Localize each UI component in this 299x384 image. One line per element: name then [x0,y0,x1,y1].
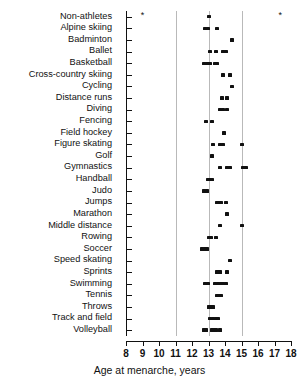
category-label-distance-runs: Distance runs [56,93,112,103]
data-point [225,96,229,99]
data-point [222,131,226,134]
category-tick [126,284,132,285]
category-label-cycling: Cycling [82,81,112,91]
data-point [206,27,210,30]
category-label-jumps: Jumps [85,197,112,207]
data-point [209,236,213,239]
x-tick-label-17: 17 [269,348,280,360]
data-point [244,166,248,169]
category-label-fencing: Fencing [79,116,112,126]
data-point [228,73,232,76]
category-label-handball: Handball [76,174,112,184]
x-tick-15 [242,341,243,346]
menarche-age-dot-chart: Non-athletesAlpine skiingBadmintonBallet… [0,0,299,384]
x-axis [126,341,292,347]
gridline-11 [176,11,177,336]
x-tick-label-9: 9 [140,348,146,360]
data-point [210,178,214,181]
x-tick-label-11: 11 [170,348,181,360]
category-label-gymnastics: Gymnastics [64,162,112,172]
category-axis-spine [126,11,127,336]
category-label-golf: Golf [95,151,112,161]
x-tick-12 [192,341,193,346]
data-point [220,96,224,99]
data-point [205,247,209,250]
category-tick [126,110,132,111]
category-tick [126,237,132,238]
x-tick-16 [258,341,259,346]
data-point [205,189,209,192]
x-axis-title: Age at menarche, years [0,364,299,376]
outlier-asterisk: * [140,13,145,18]
data-point [218,166,222,169]
data-point [230,85,234,88]
category-label-basketball: Basketball [70,58,112,68]
category-label-judo: Judo [92,186,112,196]
category-label-cross-country-skiing: Cross-country skiing [29,70,112,80]
data-point [216,317,220,320]
data-point [218,224,222,227]
x-tick-11 [176,341,177,346]
x-tick-9 [143,341,144,346]
x-tick-17 [275,341,276,346]
x-tick-8 [126,341,127,346]
category-tick [126,28,132,29]
data-point [204,328,208,331]
category-tick [126,63,132,64]
data-point [225,270,229,273]
category-label-soccer: Soccer [83,244,112,254]
data-point [219,294,223,297]
category-label-figure-skating: Figure skating [54,139,112,149]
category-tick [126,330,132,331]
x-tick-label-13: 13 [203,348,214,360]
category-label-ballet: Ballet [89,46,112,56]
category-label-alpine-skiing: Alpine skiing [60,23,112,33]
data-point [207,15,211,18]
x-tick-label-16: 16 [252,348,263,360]
x-tick-label-8: 8 [123,348,129,360]
x-tick-label-10: 10 [153,348,164,360]
outlier-asterisk: * [278,13,283,18]
data-point [210,120,214,123]
data-point [240,224,244,227]
category-tick [126,52,132,53]
category-tick [126,214,132,215]
x-tick-10 [159,341,160,346]
category-tick [126,226,132,227]
category-tick [126,133,132,134]
data-point [208,50,212,53]
category-tick [126,17,132,18]
category-tick [126,191,132,192]
data-point [224,50,228,53]
category-tick [126,261,132,262]
category-label-non-athletes: Non-athletes [60,12,112,22]
category-label-track-and-field: Track and field [52,313,112,323]
x-tick-label-18: 18 [285,348,296,360]
category-label-badminton: Badminton [68,35,112,45]
x-axis-tick-labels: 89101112131415161718 [118,348,299,361]
category-label-field-hockey: Field hockey [60,128,112,138]
data-point [211,305,215,308]
data-point [204,120,208,123]
data-point [214,50,218,53]
category-tick [126,249,132,250]
plot-area: ** [126,11,291,336]
x-tick-13 [209,341,210,346]
category-tick [126,98,132,99]
category-label-sprints: Sprints [83,267,112,277]
data-point [208,62,212,65]
category-tick [126,121,132,122]
x-tick-label-15: 15 [236,348,247,360]
category-tick [126,86,132,87]
data-point [225,212,229,215]
category-tick [126,75,132,76]
category-label-rowing: Rowing [81,232,112,242]
x-tick-14 [225,341,226,346]
gridline-15 [242,11,243,336]
data-point [211,143,215,146]
category-tick [126,179,132,180]
data-point [221,73,225,76]
x-tick-label-14: 14 [219,348,230,360]
category-tick [126,168,132,169]
category-label-diving: Diving [86,104,112,114]
